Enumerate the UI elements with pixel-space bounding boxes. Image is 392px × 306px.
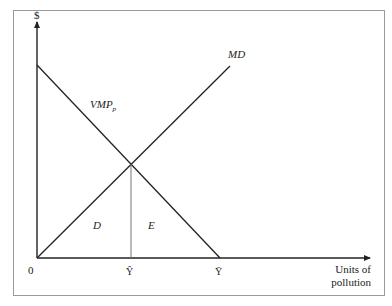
region-d-label: D (92, 219, 101, 231)
x-axis-label-line1: Units of (335, 263, 371, 275)
y-axis-label: $ (34, 9, 40, 21)
origin-label: 0 (28, 264, 34, 276)
y-hat-tick-label: Ŷ (126, 266, 133, 277)
vmp-label: VMPp (90, 98, 117, 113)
md-label: MD (227, 48, 245, 60)
region-e-label: E (147, 219, 155, 231)
y-bar-tick-label: Ȳ (215, 266, 222, 277)
x-axis-label-line2: pollution (331, 276, 371, 288)
vmp-curve (37, 65, 220, 258)
pollution-diagram: $ 0 VMPp MD D E Ŷ Ȳ Units of pollution (0, 0, 392, 306)
